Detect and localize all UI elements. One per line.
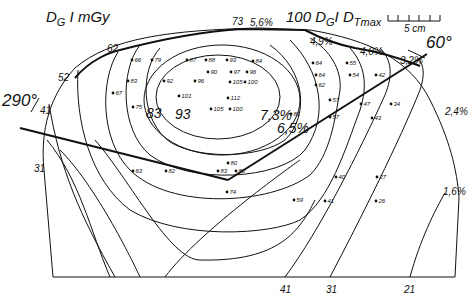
measurement-dot	[151, 59, 154, 62]
measurement-value: 101	[182, 93, 192, 99]
measurement-dot	[229, 81, 232, 84]
measurement-value: 63	[136, 168, 143, 174]
measurement-dot	[131, 59, 134, 62]
measurement-dot	[312, 62, 315, 65]
label-41-bottom: 41	[280, 284, 291, 295]
beam-290	[20, 128, 228, 180]
measurement-value: 41	[328, 198, 335, 204]
measurement-dot	[329, 99, 332, 102]
measurement-dot	[186, 59, 189, 62]
measurement-dot	[324, 200, 327, 203]
measurement-dot	[235, 170, 238, 173]
measurement-value: 80	[231, 160, 238, 166]
measurement-value: 83	[131, 78, 138, 84]
measurement-dot	[335, 176, 338, 179]
measurement-value: 42	[379, 72, 386, 78]
measurement-dot	[132, 106, 135, 109]
measurement-dot	[226, 59, 229, 62]
measurement-value: 64	[319, 72, 326, 78]
measurement-value: 75	[136, 104, 143, 110]
measurement-dot	[217, 170, 220, 173]
measurement-dot	[163, 80, 166, 83]
measurement-value: 88	[209, 57, 216, 63]
measurement-dot	[194, 80, 197, 83]
measurement-dot	[246, 71, 249, 74]
scale-label: 5 cm	[404, 23, 426, 34]
contour-label-93: 93	[175, 106, 191, 122]
isodose-31c	[330, 58, 423, 277]
measurement-value: 112	[231, 95, 241, 101]
measurement-dot	[229, 108, 232, 111]
measurement-dot	[127, 80, 130, 83]
title-left: DG I mGy	[46, 8, 111, 28]
measurement-dot	[227, 97, 230, 100]
measurement-dot	[375, 200, 378, 203]
measurement-dot	[360, 103, 363, 106]
measurement-value: 59	[297, 197, 304, 203]
measurement-dot	[207, 71, 210, 74]
angle-60: 60°	[426, 33, 452, 52]
isodose-21	[410, 193, 445, 277]
measurement-value: 105	[233, 79, 244, 85]
measurement-value: 74	[230, 189, 237, 195]
measurement-dot	[376, 176, 379, 179]
measurement-value: 79	[155, 57, 162, 63]
isodose-inner	[156, 55, 280, 139]
measurement-dot	[178, 95, 181, 98]
measurement-value: 64	[316, 60, 323, 66]
measurement-value: 67	[116, 90, 123, 96]
measurement-dot	[244, 81, 247, 84]
measurement-value: 90	[211, 69, 218, 75]
scale-bar: 5 cm	[388, 15, 440, 34]
pct-4-9: 4,9%	[310, 36, 333, 47]
pct-2-4: 2,4%	[444, 106, 468, 117]
measurement-dot	[230, 71, 233, 74]
measurement-value: 93	[230, 57, 237, 63]
label-62: 62	[107, 43, 119, 54]
dose-distribution-diagram: 6679878893849097968392961051006710111210…	[0, 0, 476, 305]
label-52: 52	[58, 72, 70, 83]
measurement-value: 43	[375, 115, 382, 121]
measurement-value: 83	[221, 168, 228, 174]
angle-290: 290°	[1, 91, 37, 110]
measurement-dot	[165, 170, 168, 173]
pct-6-5: 6,5%	[277, 120, 309, 136]
measurement-value: 96	[250, 69, 257, 75]
measurement-dot	[210, 108, 213, 111]
measurement-value: 40	[339, 174, 346, 180]
measurement-dot	[226, 191, 229, 194]
title-right: 100 DGI DTmax	[286, 8, 382, 28]
measurement-dot	[315, 84, 318, 87]
measurement-value: 34	[394, 101, 401, 107]
label-31-left: 31	[34, 163, 45, 174]
measurement-value: 66	[135, 57, 142, 63]
measurement-value: 80	[239, 168, 246, 174]
measurement-value: 62	[319, 82, 326, 88]
pct-3-2: 3,2%	[400, 55, 423, 66]
pct-1-6: 1,6%	[443, 186, 466, 197]
measurement-value: 57	[333, 114, 340, 120]
measurement-dot	[293, 199, 296, 202]
measurement-value: 100	[248, 79, 259, 85]
measurement-value: 57	[333, 97, 340, 103]
measurement-value: 26	[378, 198, 386, 204]
measurement-value: 82	[169, 168, 176, 174]
measurement-value: 97	[234, 69, 241, 75]
measurement-value: 54	[353, 72, 360, 78]
measurement-dot	[132, 170, 135, 173]
isodose-41b	[285, 48, 390, 277]
measurement-value: 27	[379, 174, 387, 180]
isodose-41	[49, 104, 115, 277]
measurement-dot	[227, 162, 230, 165]
label-31-bottom: 31	[326, 284, 337, 295]
measurement-value: 92	[167, 78, 174, 84]
measurement-dot	[375, 74, 378, 77]
measurement-value: 87	[190, 57, 197, 63]
measurement-value: 81	[294, 111, 301, 117]
measurement-dot	[112, 92, 115, 95]
beam-60	[228, 54, 427, 180]
measurement-value: 84	[256, 58, 263, 64]
pct-5-6: 5,6%	[250, 17, 273, 28]
isodose-lower-1	[60, 150, 140, 277]
measurement-dot	[346, 62, 349, 65]
